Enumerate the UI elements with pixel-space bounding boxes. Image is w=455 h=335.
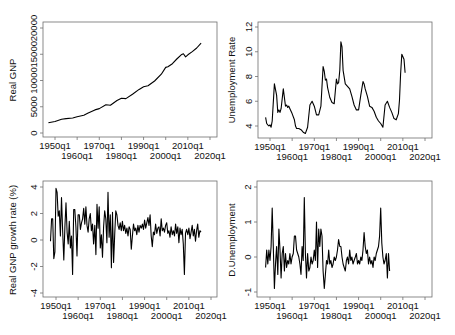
x-tick-label: 2000q1 bbox=[365, 310, 397, 321]
x-tick-label: 1960q1 bbox=[61, 150, 93, 161]
y-tick-label: 6 bbox=[243, 99, 254, 104]
y-tick-label: 0 bbox=[28, 130, 39, 135]
x-tick-label: 2000q1 bbox=[150, 150, 182, 161]
y-tick-label: 4 bbox=[28, 184, 39, 189]
plot-frame bbox=[43, 181, 217, 297]
x-tick-label: 1980q1 bbox=[321, 151, 353, 162]
panel-d-unemployment: -10121950q11960q11970q11980q11990q12000q… bbox=[226, 181, 441, 321]
y-axis-label-d-unemployment: D.Unemployment bbox=[226, 203, 237, 277]
plot-frame bbox=[43, 22, 217, 137]
y-tick-label: 10000 bbox=[28, 67, 39, 93]
x-tick-label: 1960q1 bbox=[276, 310, 308, 321]
panel-gnp-growth-rate: -4-20241950q11960q11970q11980q11990q1200… bbox=[7, 181, 227, 321]
y-tick-label: -4 bbox=[28, 289, 39, 297]
y-tick-label: 10 bbox=[243, 46, 254, 57]
y-axis-label-unemployment-rate: Unemployment Rate bbox=[226, 37, 237, 124]
series-line bbox=[266, 198, 390, 289]
x-tick-label: 2020q1 bbox=[195, 310, 227, 321]
x-tick-label: 2020q1 bbox=[194, 150, 226, 161]
series-line bbox=[266, 42, 406, 134]
x-tick-label: 1980q1 bbox=[106, 150, 138, 161]
series-line bbox=[51, 188, 202, 274]
y-tick-label: 4 bbox=[243, 123, 254, 128]
y-tick-label: 2 bbox=[242, 184, 253, 189]
x-tick-label: 2000q1 bbox=[365, 151, 397, 162]
x-tick-label: 1960q1 bbox=[276, 151, 308, 162]
y-tick-label: 5000 bbox=[28, 96, 39, 117]
x-tick-label: 1980q1 bbox=[107, 310, 139, 321]
series-line bbox=[48, 43, 201, 123]
x-tick-label: 2020q1 bbox=[409, 310, 441, 321]
y-axis-label-real-gnp: Real GNP bbox=[7, 59, 18, 102]
x-tick-label: 2000q1 bbox=[151, 310, 183, 321]
y-tick-label: 8 bbox=[243, 74, 254, 79]
y-tick-label: 12 bbox=[243, 22, 254, 33]
y-tick-label: 2 bbox=[28, 211, 39, 216]
y-tick-label: 15000 bbox=[28, 41, 39, 67]
y-tick-label: -1 bbox=[242, 288, 253, 296]
y-tick-label: -2 bbox=[28, 262, 39, 270]
x-tick-label: 1960q1 bbox=[62, 310, 94, 321]
panel-real-gnp: 050001000015000200001950q11960q11970q119… bbox=[7, 15, 226, 161]
chart-canvas: 050001000015000200001950q11960q11970q119… bbox=[0, 0, 455, 335]
y-tick-label: 0 bbox=[28, 237, 39, 242]
x-tick-label: 1980q1 bbox=[321, 310, 353, 321]
y-tick-label: 0 bbox=[242, 254, 253, 259]
y-tick-label: 1 bbox=[242, 219, 253, 224]
y-axis-label-gnp-growth: Real GNP growth rate (%) bbox=[7, 185, 18, 295]
x-tick-label: 2020q1 bbox=[409, 151, 441, 162]
plot-frame bbox=[257, 181, 432, 297]
panel-unemployment-rate: 46810121950q11960q11970q11980q11990q1200… bbox=[226, 22, 441, 162]
y-tick-label: 20000 bbox=[28, 15, 39, 41]
